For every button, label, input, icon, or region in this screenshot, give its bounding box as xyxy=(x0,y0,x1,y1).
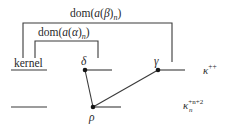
edge-gamma-rho xyxy=(93,70,158,107)
inner-bracket: dom(a(α)n) xyxy=(35,26,98,58)
outer-bracket-label: dom(a(β)n) xyxy=(70,7,121,22)
ordinal-diagram: dom(a(β)n) dom(a(α)n) kernel δ γ ρ κ++ κ… xyxy=(0,0,229,130)
inner-bracket-line xyxy=(35,41,98,58)
kernel-label: kernel xyxy=(14,57,43,69)
kappa-plusplus-label: κ++ xyxy=(203,62,217,76)
kappa-n-label: κ+n+2 xyxy=(183,98,204,111)
inner-bracket-label: dom(a(α)n) xyxy=(38,26,90,41)
gamma-label: γ xyxy=(154,55,159,68)
edge-delta-rho xyxy=(85,70,93,107)
delta-node xyxy=(83,68,88,73)
delta-label: δ xyxy=(81,55,87,67)
kappa-n-subscript: n xyxy=(189,106,193,114)
rho-node xyxy=(91,105,96,110)
gamma-node xyxy=(156,68,161,73)
rho-label: ρ xyxy=(88,111,95,124)
